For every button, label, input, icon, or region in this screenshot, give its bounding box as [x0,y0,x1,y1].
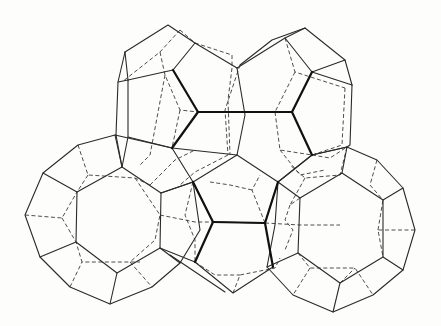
left-tetrakaidecahedron-outline [25,135,200,304]
right-hexagon-face [298,173,383,283]
left-hexagon-face [76,167,161,273]
central-pentagon [193,155,278,223]
polyhedra-drawing [0,0,441,326]
top-right-dodecahedron-outline [240,28,352,85]
visible-edges [25,25,415,312]
hidden-edges [25,30,415,295]
polyhedra-diagram [0,0,441,326]
right-tetrakaidecahedron-outline [267,147,415,312]
